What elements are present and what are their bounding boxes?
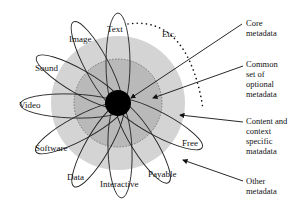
svg-text:metadata: metadata — [246, 89, 277, 99]
label-free: Free — [182, 138, 198, 148]
label-sound: Sound — [35, 63, 59, 73]
label-etc: Etc. — [162, 29, 176, 39]
label-video: Video — [19, 100, 41, 110]
label-interactive: Interactive — [100, 179, 138, 189]
arrow-content-context — [180, 115, 243, 122]
label-image: Image — [69, 34, 92, 44]
svg-text:set of: set of — [246, 69, 265, 79]
svg-text:Other: Other — [246, 176, 266, 186]
svg-text:Core: Core — [246, 18, 263, 28]
svg-text:Common: Common — [246, 59, 278, 69]
svg-text:metadata: metadata — [246, 28, 277, 38]
annotation-content-context: Content and context specific matadata — [246, 116, 288, 156]
svg-text:matadata: matadata — [246, 146, 277, 156]
annotation-common-optional: Common set of optional metadata — [246, 59, 278, 99]
label-software: Software — [35, 143, 68, 153]
annotation-core: Core metadata — [246, 18, 277, 38]
metadata-diagram: Text Image Sound Video Software Data Int… — [0, 0, 300, 210]
svg-text:optional: optional — [246, 79, 274, 89]
svg-text:Content and: Content and — [246, 116, 288, 126]
svg-text:metadata: metadata — [246, 186, 277, 196]
label-text: Text — [107, 24, 123, 34]
svg-text:context: context — [246, 126, 272, 136]
label-data: Data — [67, 172, 84, 182]
label-payable: Payable — [148, 169, 177, 179]
annotation-other: Other metadata — [246, 176, 277, 196]
arrow-other — [183, 160, 243, 181]
core-circle — [105, 90, 131, 116]
svg-text:specific: specific — [246, 136, 273, 146]
